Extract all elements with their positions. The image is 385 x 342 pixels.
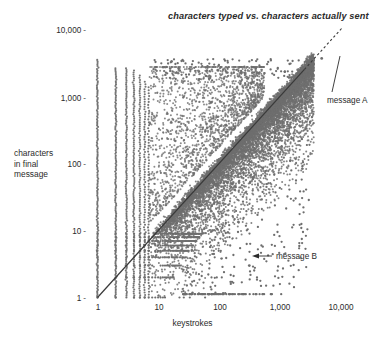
scatter-plot-canvas <box>0 0 385 342</box>
annotation-message-b-arrowhead <box>252 253 259 258</box>
annotation-message-a-connector <box>332 56 340 92</box>
chart-figure: characters typed vs. characters actually… <box>0 0 385 342</box>
